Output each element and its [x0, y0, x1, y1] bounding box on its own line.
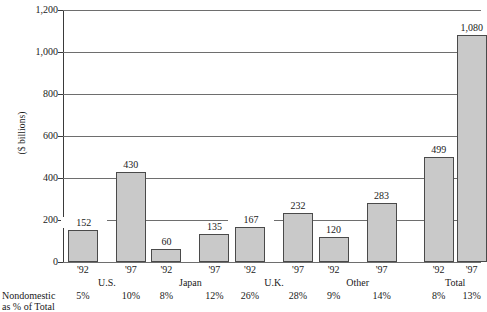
bar-value-label: 232 [276, 200, 320, 211]
bar-value-label: 499 [417, 144, 461, 155]
nondomestic-percent-label: 8% [141, 290, 191, 301]
gridline [63, 52, 481, 53]
nondomestic-percent-label: 26% [225, 290, 275, 301]
bar [116, 172, 146, 262]
bar [235, 227, 265, 262]
x-axis-year-label: '92 [309, 264, 359, 275]
nondomestic-percent-label: 9% [309, 290, 359, 301]
bar-value-label: 1,080 [450, 22, 487, 33]
y-axis-tick-label: 1,200 [20, 5, 58, 15]
bar-value-label: 60 [144, 236, 188, 247]
gridline [63, 262, 481, 263]
y-axis-tick-labels: 02004006008001,0001,200 [18, 0, 58, 308]
bar [68, 230, 98, 262]
x-axis-group-label: Total [414, 277, 487, 288]
bar [319, 237, 349, 262]
x-axis-year-label: '92 [141, 264, 191, 275]
y-axis-tick-mark [58, 94, 63, 95]
nondomestic-percent-label: 13% [447, 290, 487, 301]
bar-value-label: 283 [360, 190, 404, 201]
footnote-line-1: Nondomestic [2, 290, 55, 301]
y-axis-tick-mark [58, 136, 63, 137]
bar-value-label: 167 [228, 214, 274, 225]
bar [151, 249, 181, 262]
x-axis-year-label: '92 [225, 264, 275, 275]
y-axis-tick-label: 0 [20, 257, 58, 267]
gridline [63, 10, 481, 11]
footnote-line-2: as % of Total [2, 301, 55, 312]
bar-value-label: 120 [312, 224, 356, 235]
bar [424, 157, 454, 262]
y-axis-tick-label: 1,000 [20, 47, 58, 57]
x-axis-group-label: Other [309, 277, 407, 288]
bar [283, 213, 313, 262]
y-axis-tick-mark [58, 10, 63, 11]
bar-value-label: 152 [61, 217, 107, 228]
y-axis-tick-mark [58, 52, 63, 53]
x-axis-year-label: '97 [357, 264, 407, 275]
bar [199, 234, 229, 262]
y-axis-tick-label: 400 [20, 173, 58, 183]
x-axis-year-label: '97 [447, 264, 487, 275]
bar-value-label: 430 [109, 159, 153, 170]
bar [457, 35, 487, 262]
bar [367, 203, 397, 262]
y-axis-tick-mark [58, 262, 63, 263]
plot-area: 152430601351672321202834991,080 [63, 10, 481, 262]
y-axis-tick-label: 600 [20, 131, 58, 141]
gridline [63, 136, 481, 137]
y-axis-tick-label: 800 [20, 89, 58, 99]
y-axis-tick-mark [58, 178, 63, 179]
y-axis-tick-label: 200 [20, 215, 58, 225]
x-axis-labels: '925%'9710%U.S.'928%'9712%Japan'9226%'97… [63, 264, 481, 308]
gridline [63, 94, 481, 95]
nondomestic-percent-label: 5% [58, 290, 108, 301]
nondomestic-percent-label: 14% [357, 290, 407, 301]
x-axis-year-label: '92 [58, 264, 108, 275]
